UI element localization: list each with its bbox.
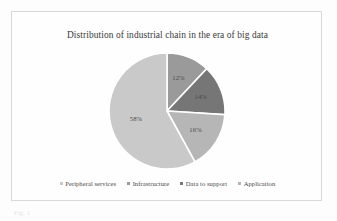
pie-chart: 58% 12% 14% 16%	[108, 52, 226, 170]
pie-slice-group	[109, 53, 225, 169]
document-page: Distribution of industrial chain in the …	[0, 0, 337, 221]
legend-item-label: Data to support	[186, 180, 227, 187]
legend-item-peripheral-services: Peripheral services	[60, 180, 116, 187]
legend-item-data-to-support: Data to support	[180, 180, 227, 187]
legend-item-label: Infrastructure	[133, 180, 170, 187]
legend-item-label: Application	[244, 180, 276, 187]
legend-item-label: Peripheral services	[65, 180, 116, 187]
chart-title: Distribution of industrial chain in the …	[12, 30, 323, 40]
legend-marker-icon	[180, 182, 183, 185]
legend-marker-icon	[60, 182, 63, 185]
caption-fragment: Fig. 1	[14, 209, 109, 218]
slice-label-application: 16%	[189, 126, 201, 133]
chart-legend: Peripheral services Infrastructure Data …	[12, 180, 323, 187]
pie-svg	[108, 52, 226, 170]
legend-item-application: Application	[238, 180, 275, 187]
legend-marker-icon	[238, 182, 241, 185]
legend-item-infrastructure: Infrastructure	[127, 180, 169, 187]
slice-label-data-to-support: 14%	[195, 93, 207, 100]
slice-label-peripheral-services: 58%	[130, 115, 142, 122]
legend-marker-icon	[127, 182, 130, 185]
figure-frame: Distribution of industrial chain in the …	[11, 11, 322, 201]
slice-label-infrastructure: 12%	[172, 74, 184, 81]
